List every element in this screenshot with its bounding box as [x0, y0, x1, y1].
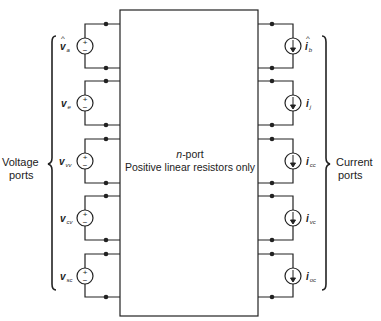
voltage-label-sc: vsc: [60, 271, 73, 282]
current-label-oc: ioc: [306, 271, 316, 282]
hat-accent: ^: [61, 34, 65, 43]
down-arrow-icon: [291, 155, 296, 167]
current-ports-brace: [322, 36, 330, 290]
minus-sign: −: [83, 46, 88, 55]
nport-title: n-port: [120, 148, 260, 160]
minus-sign: −: [83, 218, 88, 227]
minus-sign: −: [83, 276, 88, 285]
nport-title-rest: -port: [182, 148, 204, 160]
down-arrow-icon: [291, 40, 296, 52]
voltage-label-cv: vcv: [60, 213, 73, 224]
voltage-ports-brace: [48, 36, 56, 290]
current-ports-label-line2: ports: [338, 169, 362, 181]
voltage-label-vv: vvv: [59, 156, 72, 167]
hat-accent: ^: [306, 34, 310, 43]
minus-sign: −: [83, 103, 88, 112]
minus-sign: −: [83, 161, 88, 170]
down-arrow-icon: [291, 212, 296, 224]
down-arrow-icon: [291, 270, 296, 282]
current-port-oc: [258, 254, 301, 297]
current-port-b: [258, 24, 301, 68]
current-port-j: [258, 81, 301, 125]
current-label-b: ^ib: [305, 41, 312, 52]
nport-subtitle: Positive linear resistors only: [120, 161, 260, 173]
current-label-j: ij: [306, 98, 311, 109]
voltage-ports-label-line2: ports: [9, 169, 33, 181]
current-ports-label-line1: Current: [336, 156, 373, 168]
voltage-label-e: ve: [61, 98, 71, 109]
current-label-cc: icc: [306, 156, 316, 167]
down-arrow-icon: [291, 97, 296, 109]
current-label-vc: ivc: [306, 213, 316, 224]
voltage-ports-label-line1: Voltage: [2, 156, 39, 168]
voltage-label-a: ^va: [60, 41, 70, 52]
current-port-cc: [258, 139, 301, 183]
current-port-vc: [258, 196, 301, 240]
